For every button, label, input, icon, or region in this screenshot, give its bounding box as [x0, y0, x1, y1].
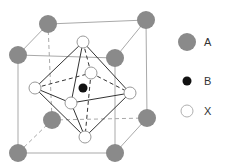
- atom-a-back-bottom-right: [138, 109, 156, 127]
- atom-a-back-top-left: [39, 15, 57, 33]
- atom-x-right: [124, 87, 136, 99]
- atom-x-front: [65, 97, 77, 109]
- atom-a-front-top-left: [9, 46, 27, 64]
- octa-edge-left-bottom: [35, 88, 85, 137]
- atom-a-back-top-right: [137, 11, 155, 29]
- atom-x-left: [29, 82, 41, 94]
- octa-edge-back-right: [91, 73, 130, 93]
- legend-a-label: A: [204, 36, 211, 48]
- octa-edge-back-bottom: [85, 73, 91, 137]
- atom-b-center: [79, 84, 88, 93]
- atom-a-front-top-right: [106, 49, 124, 67]
- legend-x-label: X: [204, 105, 211, 117]
- atom-x-back: [85, 67, 97, 79]
- cube-edge-back-top: [48, 20, 146, 24]
- legend-b-label: B: [204, 75, 211, 87]
- perovskite-diagram: [0, 0, 225, 162]
- legend-x-icon: [181, 105, 193, 117]
- cube-edge-back-right-vertical: [146, 20, 147, 118]
- atom-a-front-bottom-right: [106, 144, 124, 162]
- atom-a-front-bottom-left: [9, 144, 27, 162]
- atom-x-bottom: [79, 131, 91, 143]
- legend-b-icon: [183, 77, 192, 86]
- atom-a-back-bottom-left: [43, 111, 61, 129]
- legend-a-icon: [178, 33, 196, 51]
- atom-x-top: [77, 36, 89, 48]
